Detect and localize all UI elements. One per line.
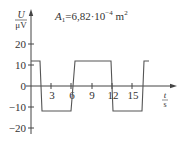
svg-text:s: s: [163, 100, 166, 109]
y-tick-label: 0: [21, 80, 27, 92]
x-axis-label: t s: [162, 90, 168, 109]
y-axis-arrow-icon: [29, 9, 33, 16]
y-tick-label: −20: [9, 122, 27, 134]
x-axis-arrow-icon: [170, 84, 177, 88]
area-annotation: A1=6,82·10−4 m2: [54, 9, 128, 24]
x-tick-label: 3: [49, 89, 55, 101]
svg-text:μV: μV: [15, 20, 27, 30]
y-tick-label: 20: [15, 38, 27, 50]
svg-text:t: t: [164, 90, 167, 100]
x-tick-label: 15: [128, 89, 140, 101]
y-tick-label: −10: [9, 101, 27, 113]
y-tick-label: 10: [15, 59, 27, 71]
y-axis-label: U μV: [15, 9, 27, 30]
chart: 20 10 0 −10 −20 3 6 9 12 15 U μV t s A1=…: [0, 0, 184, 148]
svg-text:U: U: [17, 9, 25, 20]
x-tick-label: 9: [89, 89, 95, 101]
